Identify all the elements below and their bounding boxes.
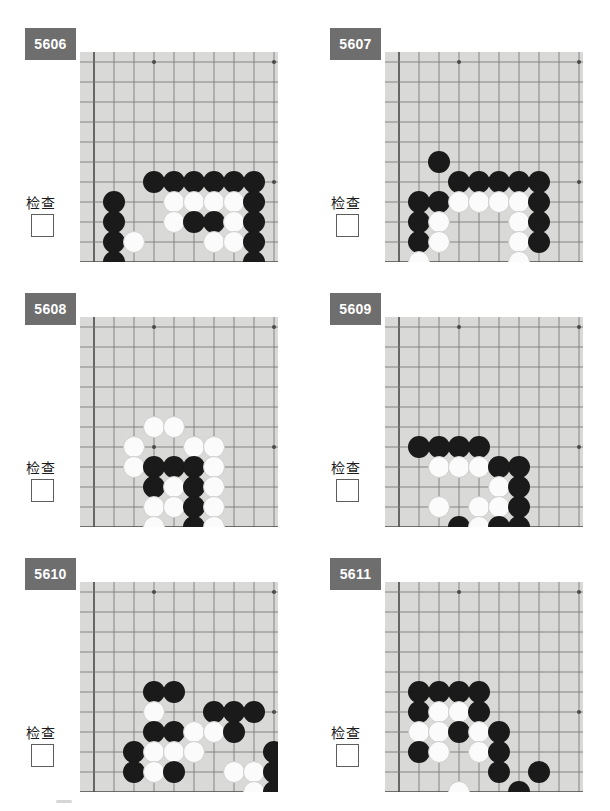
problem-number-badge: 5607 [330, 28, 381, 60]
black-stone [408, 436, 430, 458]
black-stone [243, 701, 265, 723]
white-stone [163, 191, 185, 213]
check-checkbox[interactable] [31, 479, 54, 502]
check-label: 检查 [26, 192, 56, 212]
white-stone [143, 761, 165, 783]
black-stone [203, 701, 225, 723]
black-stone [143, 456, 165, 478]
black-stone [448, 681, 470, 703]
black-stone [488, 721, 510, 743]
check-label: 检查 [26, 722, 56, 742]
white-stone [203, 191, 225, 213]
go-board-5609[interactable] [385, 317, 583, 527]
black-stone [508, 456, 530, 478]
go-board-5607[interactable] [385, 52, 583, 262]
black-stone [103, 231, 125, 253]
black-stone [203, 171, 225, 193]
black-stone [123, 741, 145, 763]
problem-meta-5609: 5609检查 [330, 285, 385, 510]
black-stone [183, 211, 205, 233]
white-stone [123, 231, 145, 253]
check-checkbox[interactable] [31, 744, 54, 767]
black-stone [163, 456, 185, 478]
black-stone [263, 741, 278, 763]
white-stone [448, 701, 470, 723]
check-checkbox[interactable] [336, 744, 359, 767]
black-stone [243, 231, 265, 253]
white-stone [428, 496, 450, 518]
black-stone [488, 741, 510, 763]
black-stone [243, 191, 265, 213]
black-stone [528, 761, 550, 783]
problem-number-badge: 5608 [25, 293, 76, 325]
check-label: 检查 [331, 457, 361, 477]
check-checkbox[interactable] [336, 479, 359, 502]
white-stone [448, 456, 470, 478]
black-stone [448, 436, 470, 458]
white-stone [223, 211, 245, 233]
white-stone [428, 701, 450, 723]
white-stone [468, 741, 490, 763]
go-board-5608[interactable] [80, 317, 278, 527]
black-stone [508, 496, 530, 518]
black-stone [223, 171, 245, 193]
black-stone [408, 701, 430, 723]
white-stone [468, 456, 490, 478]
white-stone [243, 761, 265, 783]
check-checkbox[interactable] [336, 214, 359, 237]
black-stone [183, 171, 205, 193]
white-stone [203, 231, 225, 253]
problem-number-badge: 5611 [330, 558, 381, 590]
white-stone [223, 761, 245, 783]
problem-panel-5608: 5608检查 [0, 285, 300, 540]
white-stone [183, 191, 205, 213]
white-stone [143, 741, 165, 763]
problem-meta-5606: 5606检查 [25, 20, 80, 245]
black-stone [143, 476, 165, 498]
black-stone [163, 171, 185, 193]
black-stone [143, 721, 165, 743]
black-stone [183, 496, 205, 518]
black-stone [263, 761, 278, 783]
problem-panel-5611: 5611检查 [305, 550, 605, 805]
problem-panel-5610: 5610检查 [0, 550, 300, 805]
white-stone [143, 416, 165, 438]
problem-panel-5606: 5606检查 [0, 20, 300, 275]
black-stone [163, 721, 185, 743]
black-stone [143, 681, 165, 703]
check-checkbox[interactable] [31, 214, 54, 237]
white-stone [428, 211, 450, 233]
go-board-5610[interactable] [80, 582, 278, 792]
black-stone [103, 191, 125, 213]
black-stone [163, 761, 185, 783]
white-stone [508, 231, 530, 253]
white-stone [203, 436, 225, 458]
black-stone [123, 761, 145, 783]
problem-panel-5609: 5609检查 [305, 285, 605, 540]
problem-number-badge: 5610 [25, 558, 76, 590]
black-stone [468, 436, 490, 458]
go-board-5611[interactable] [385, 582, 583, 792]
white-stone [123, 436, 145, 458]
white-stone [203, 721, 225, 743]
black-stone [468, 171, 490, 193]
white-stone [428, 741, 450, 763]
white-stone [163, 211, 185, 233]
black-stone [468, 681, 490, 703]
check-label: 检查 [331, 192, 361, 212]
white-stone [183, 436, 205, 458]
white-stone [448, 191, 470, 213]
board-grid [385, 317, 583, 527]
black-stone [528, 191, 550, 213]
white-stone [203, 496, 225, 518]
black-stone [428, 191, 450, 213]
black-stone [508, 171, 530, 193]
white-stone [428, 456, 450, 478]
black-stone [243, 171, 265, 193]
problem-meta-5611: 5611检查 [330, 550, 385, 775]
black-stone [163, 681, 185, 703]
black-stone [448, 171, 470, 193]
black-stone [428, 151, 450, 173]
white-stone [163, 496, 185, 518]
go-board-5606[interactable] [80, 52, 278, 262]
